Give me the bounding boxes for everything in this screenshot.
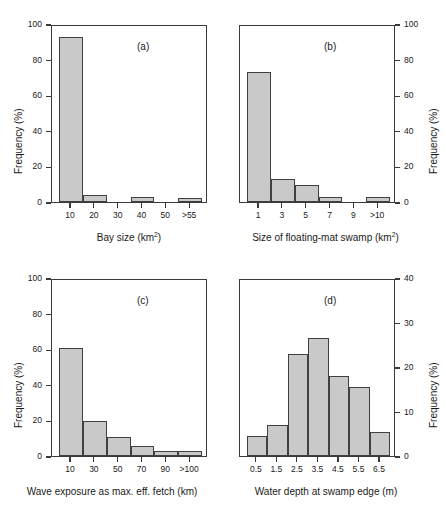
panel-c-plot-frame	[51, 279, 207, 457]
x-tick-label-d-0.5: 0.5	[250, 465, 262, 474]
y-tick-label-d-30: 30	[404, 319, 435, 328]
panel-b-x-axis-title-text: Size of floating-mat swamp (km	[252, 232, 392, 243]
bar-c-10	[59, 348, 83, 456]
panel-a: 020406080100 1020304050>55 (a) Frequency…	[0, 0, 223, 254]
y-tick-label-b-100: 100	[404, 20, 435, 29]
x-tick-d-5.5	[358, 457, 359, 462]
x-tick-c-70	[141, 457, 142, 462]
panel-c-x-axis-title-text: Wave exposure as max. eff. fetch (km)	[27, 486, 198, 497]
x-tick-label-c-50: 50	[113, 465, 122, 474]
y-tick-a-60	[46, 96, 51, 97]
x-tick-label-c-70: 70	[137, 465, 146, 474]
x-tick-label-a-10: 10	[65, 211, 74, 220]
panel-a-x-axis-title: Bay size (km2)	[51, 232, 207, 243]
y-tick-a-40	[46, 131, 51, 132]
bar-d-3.5	[308, 338, 329, 456]
x-tick-a-10	[69, 203, 70, 208]
x-tick-label-b-5: 5	[303, 211, 308, 220]
y-tick-label-d-0: 0	[404, 452, 435, 461]
y-tick-label-a-0: 0	[11, 198, 42, 207]
y-tick-d-30	[395, 323, 400, 324]
panel-b-plot-frame	[239, 25, 395, 203]
bar-b->10	[366, 197, 390, 202]
x-tick-b-9	[353, 203, 354, 208]
x-tick-c-30	[93, 457, 94, 462]
bar-d-0.5	[247, 436, 268, 456]
x-tick-a->55	[189, 203, 190, 208]
panel-d: 010203040 0.51.52.53.54.55.56.5 (d) Freq…	[223, 254, 446, 509]
panel-c-tag: (c)	[137, 295, 149, 306]
x-tick-label-a-50: 50	[161, 211, 170, 220]
y-tick-c-60	[46, 350, 51, 351]
bar-b-1	[247, 72, 271, 202]
y-tick-c-20	[46, 421, 51, 422]
y-tick-label-b-60: 60	[404, 91, 435, 100]
y-tick-a-100	[46, 24, 51, 25]
y-tick-b-20	[395, 167, 400, 168]
x-tick-c->100	[189, 457, 190, 462]
panel-b-tag: (b)	[324, 41, 336, 52]
bar-a-20	[83, 195, 107, 202]
x-tick-b-3	[281, 203, 282, 208]
panel-a-x-axis-title-text: Bay size (km	[97, 232, 154, 243]
bar-d-5.5	[349, 387, 370, 456]
y-tick-label-b-0: 0	[404, 198, 435, 207]
bar-a->55	[178, 198, 202, 202]
y-tick-label-c-80: 80	[11, 310, 42, 319]
panel-a-x-axis-title-tail: )	[158, 232, 161, 243]
x-tick-label-d-5.5: 5.5	[353, 465, 365, 474]
panel-a-plot-area	[52, 26, 206, 202]
panel-d-y-axis-title: Frequency (%)	[429, 362, 439, 428]
x-tick-d-1.5	[276, 457, 277, 462]
y-tick-d-0	[395, 456, 400, 457]
x-tick-label-c->100: >100	[180, 465, 199, 474]
y-tick-b-60	[395, 96, 400, 97]
x-tick-label-b->10: >10	[370, 211, 384, 220]
x-tick-label-a->55: >55	[182, 211, 196, 220]
x-tick-label-d-2.5: 2.5	[291, 465, 303, 474]
y-tick-b-100	[395, 24, 400, 25]
x-tick-d-4.5	[337, 457, 338, 462]
panel-d-x-axis-title-text: Water depth at swamp edge (m)	[255, 486, 397, 497]
panel-d-x-axis-title: Water depth at swamp edge (m)	[231, 486, 421, 497]
y-tick-label-c-100: 100	[11, 274, 42, 283]
x-tick-label-a-40: 40	[137, 211, 146, 220]
panel-c: 020406080100 1030507090>100 (c) Frequenc…	[0, 254, 223, 509]
x-tick-b-5	[305, 203, 306, 208]
y-tick-b-40	[395, 131, 400, 132]
bar-b-3	[271, 179, 295, 202]
x-tick-b-1	[257, 203, 258, 208]
y-tick-d-10	[395, 412, 400, 413]
y-tick-label-a-60: 60	[11, 91, 42, 100]
x-tick-c-90	[165, 457, 166, 462]
x-tick-label-b-3: 3	[279, 211, 284, 220]
y-tick-label-c-60: 60	[11, 345, 42, 354]
bar-c->100	[178, 451, 202, 456]
y-tick-d-20	[395, 367, 400, 368]
bar-c-50	[107, 437, 131, 456]
x-tick-label-d-1.5: 1.5	[270, 465, 282, 474]
y-tick-label-c-0: 0	[11, 452, 42, 461]
y-tick-c-40	[46, 385, 51, 386]
panel-a-plot-frame	[51, 25, 207, 203]
x-tick-label-b-7: 7	[327, 211, 332, 220]
y-tick-c-80	[46, 314, 51, 315]
panel-b-y-axis-title: Frequency (%)	[429, 108, 439, 174]
x-tick-label-d-6.5: 6.5	[373, 465, 385, 474]
panel-b: 020406080100 13579>10 (b) Frequency (%) …	[223, 0, 446, 254]
figure-histogram-grid: 020406080100 1020304050>55 (a) Frequency…	[0, 0, 446, 509]
x-tick-c-10	[69, 457, 70, 462]
bar-d-6.5	[370, 432, 391, 456]
x-tick-label-c-30: 30	[89, 465, 98, 474]
bar-d-4.5	[329, 376, 350, 456]
y-tick-c-0	[46, 456, 51, 457]
panel-b-plot-area	[240, 26, 394, 202]
panel-d-tag: (d)	[324, 295, 336, 306]
panel-d-plot-area	[240, 280, 394, 456]
panel-a-y-axis-title: Frequency (%)	[14, 108, 24, 174]
x-tick-label-d-3.5: 3.5	[311, 465, 323, 474]
y-tick-label-a-100: 100	[11, 20, 42, 29]
x-tick-label-d-4.5: 4.5	[332, 465, 344, 474]
y-tick-c-100	[46, 278, 51, 279]
panel-d-plot-frame	[239, 279, 395, 457]
